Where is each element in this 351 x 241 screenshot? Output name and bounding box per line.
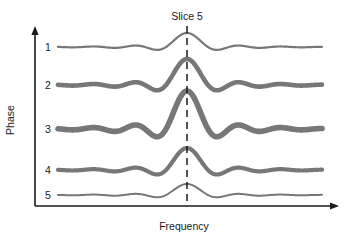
y-axis-title: Phase bbox=[4, 105, 16, 135]
y-tick-label-4: 4 bbox=[45, 164, 51, 176]
y-tick-label-group: 12345 bbox=[45, 41, 51, 201]
waveform-phase-1 bbox=[58, 33, 322, 50]
phase-frequency-waveform-figure: 12345 Slice 5 Frequency Phase bbox=[0, 0, 351, 241]
slice-marker-label: Slice 5 bbox=[171, 10, 203, 22]
waveform-group bbox=[58, 33, 322, 197]
y-axis-arrow-icon bbox=[31, 26, 38, 35]
axes-group bbox=[31, 26, 339, 210]
waveform-phase-4 bbox=[58, 148, 322, 174]
y-tick-label-5: 5 bbox=[45, 189, 51, 201]
y-tick-label-1: 1 bbox=[45, 41, 51, 53]
plot-canvas: 12345 Slice 5 Frequency Phase bbox=[0, 0, 351, 241]
x-axis-title: Frequency bbox=[159, 220, 209, 232]
y-tick-label-3: 3 bbox=[45, 123, 51, 135]
waveform-phase-5 bbox=[58, 184, 322, 197]
y-tick-label-2: 2 bbox=[45, 79, 51, 91]
x-axis-arrow-icon bbox=[330, 202, 339, 209]
waveform-phase-3 bbox=[58, 91, 322, 137]
waveform-phase-2 bbox=[58, 59, 322, 90]
